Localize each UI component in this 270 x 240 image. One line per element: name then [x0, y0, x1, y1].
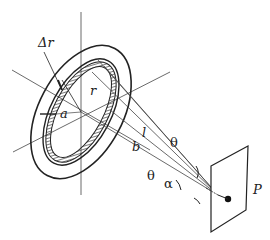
- ray-mid: [92, 72, 218, 195]
- label-r: r: [90, 84, 96, 97]
- label-alpha: α: [164, 177, 173, 190]
- alpha-arc: [194, 198, 200, 204]
- label-theta-lower: θ: [147, 169, 155, 182]
- label-b: b: [132, 140, 140, 153]
- ring-diagram: Δr r a l b θ θ α P: [0, 0, 270, 240]
- theta-lower-arc: [176, 180, 181, 190]
- label-P: P: [253, 183, 262, 196]
- label-l: l: [142, 126, 146, 139]
- plane-P: [211, 146, 248, 232]
- label-a: a: [60, 107, 68, 120]
- ray-l-lower: [104, 66, 218, 195]
- label-delta-r: Δr: [38, 36, 54, 49]
- label-theta-upper: θ: [170, 136, 178, 149]
